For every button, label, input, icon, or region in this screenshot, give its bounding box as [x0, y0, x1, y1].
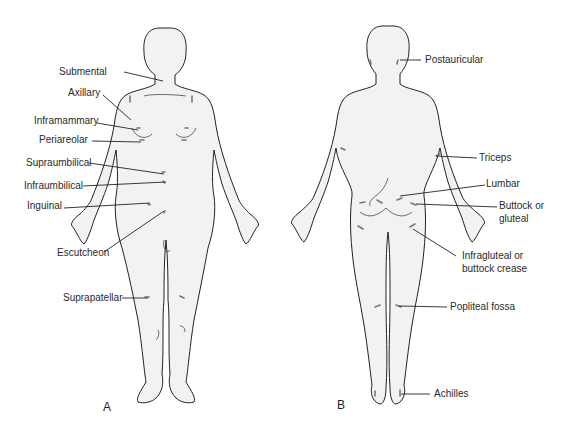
site-label-achilles: Achilles — [434, 388, 468, 400]
site-label-inguinal: Inguinal — [27, 200, 62, 212]
site-label-submental: Submental — [59, 66, 107, 78]
site-label-axillary: Axillary — [68, 87, 100, 99]
site-label-buttock-crease: buttock crease — [462, 263, 527, 275]
site-label-popliteal-fossa: Popliteal fossa — [450, 301, 515, 313]
site-label-infragluteal: Infragluteal or — [462, 250, 523, 262]
back-body-outline — [291, 26, 484, 404]
panel-label-b: B — [337, 398, 345, 412]
site-label-inframammary: Inframammary — [34, 115, 98, 127]
panel-label-a: A — [103, 400, 111, 414]
site-label-gluteal: gluteal — [499, 213, 528, 225]
site-label-postauricular: Postauricular — [425, 54, 483, 66]
site-label-supraumbilical: Supraumbilical — [26, 157, 92, 169]
site-label-lumbar: Lumbar — [486, 178, 520, 190]
incision-sites-diagram: Submental Axillary Inframammary Periareo… — [0, 0, 566, 428]
site-label-infraumbilical: Infraumbilical — [24, 180, 83, 192]
site-label-escutcheon: Escutcheon — [57, 247, 109, 259]
site-label-suprapatellar: Suprapatellar — [63, 292, 122, 304]
site-label-periareolar: Periareolar — [39, 134, 88, 146]
site-label-triceps: Triceps — [479, 152, 511, 164]
site-label-buttock: Buttock or — [499, 200, 544, 212]
front-body-outline — [71, 28, 258, 403]
